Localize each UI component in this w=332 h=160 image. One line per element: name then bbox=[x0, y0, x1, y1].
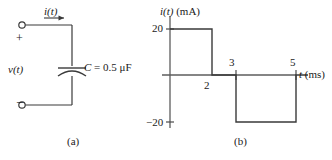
circuit-voltage-label: v(t) bbox=[8, 64, 23, 75]
x-axis-unit: (ms) bbox=[302, 68, 325, 80]
circuit-diagram bbox=[19, 15, 86, 108]
y-axis-variable: i(t) bbox=[160, 5, 173, 17]
figure-line-art bbox=[0, 0, 332, 160]
x-tick-label-3: 3 bbox=[229, 57, 235, 68]
terminal-top-node bbox=[19, 22, 25, 28]
x-axis-label: t (ms) bbox=[299, 69, 325, 80]
current-arrow-head-icon bbox=[59, 15, 65, 20]
capacitor-value-label: C = 0.5 μF bbox=[84, 62, 132, 73]
y-tick-label-minus-20: −20 bbox=[146, 117, 163, 128]
panel-a-caption: (a) bbox=[67, 136, 79, 147]
polarity-minus-label: − bbox=[16, 96, 23, 109]
y-axis-label: i(t) (mA) bbox=[160, 6, 200, 17]
circuit-current-label: i(t) bbox=[44, 6, 57, 17]
figure-container: i(t) v(t) + − C = 0.5 μF (a) i(t) (mA) t… bbox=[0, 0, 332, 160]
panel-b-caption: (b) bbox=[234, 136, 247, 147]
capacitor-plate-bottom-curved bbox=[58, 71, 86, 76]
capacitor-value: = 0.5 μF bbox=[91, 61, 131, 73]
x-tick-label-2: 2 bbox=[204, 80, 210, 91]
y-tick-label-20: 20 bbox=[152, 23, 163, 34]
y-axis-unit: (mA) bbox=[173, 5, 200, 17]
plot-axes bbox=[162, 16, 296, 128]
x-tick-label-5: 5 bbox=[290, 57, 296, 68]
polarity-plus-label: + bbox=[16, 32, 23, 44]
